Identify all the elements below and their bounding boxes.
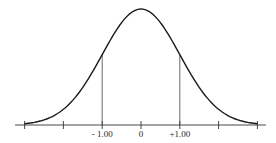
normal-curve — [25, 9, 258, 124]
x-tick-label: - 1.00 — [92, 129, 113, 139]
x-axis-tick-labels: - 1.000+1.00 — [92, 129, 191, 139]
x-tick-label: +1.00 — [169, 129, 190, 139]
normal-distribution-chart: - 1.000+1.00 — [0, 0, 276, 143]
x-tick-label: 0 — [139, 129, 144, 139]
sd-guide-lines — [102, 55, 180, 125]
